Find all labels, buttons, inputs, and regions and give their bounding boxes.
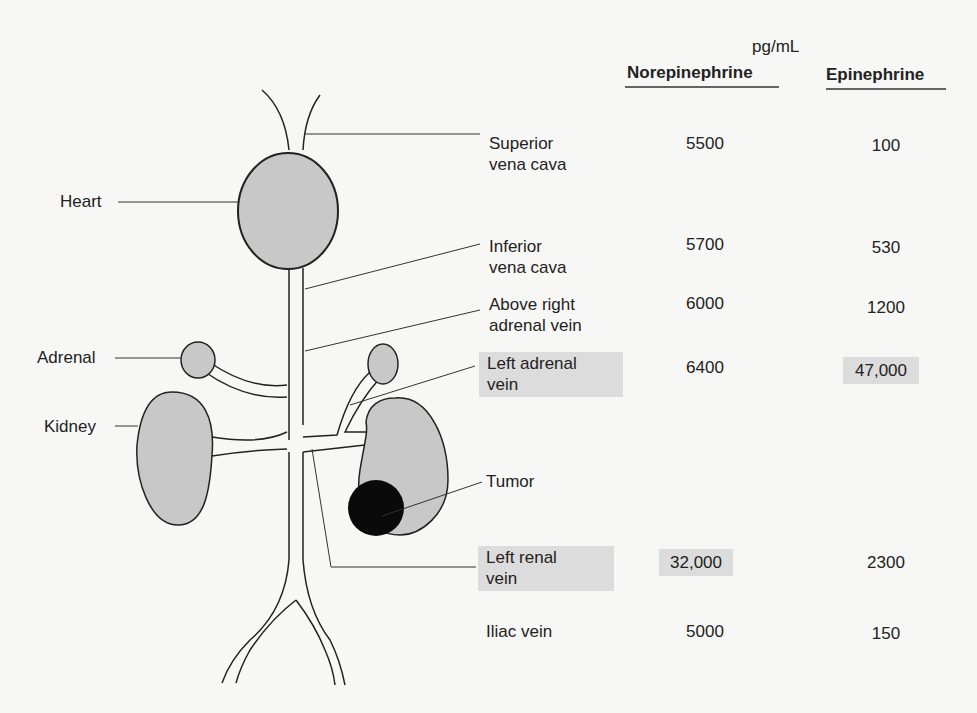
superior-vena-cava-right-branch	[303, 95, 320, 150]
epi-value-superior-vena-cava: 100	[831, 136, 941, 156]
epinephrine-header: Epinephrine	[826, 65, 924, 85]
tumor-shape	[348, 480, 404, 536]
site-label-iliac-vein: Iliac vein	[486, 621, 552, 642]
epi-value-above-right-adrenal-vein: 1200	[831, 298, 941, 318]
left-adrenal-shape	[368, 344, 398, 384]
site-label-inferior-vena-cava: Inferiorvena cava	[489, 236, 567, 278]
right-kidney-shape	[137, 392, 213, 525]
kidney-label: Kidney	[44, 416, 96, 437]
ne-value-inferior-vena-cava: 5700	[650, 235, 760, 255]
ne-value-left-adrenal-vein: 6400	[650, 358, 760, 378]
adrenal-label: Adrenal	[37, 347, 96, 368]
norepinephrine-header: Norepinephrine	[627, 63, 753, 83]
ne-value-iliac-vein: 5000	[650, 622, 760, 642]
epi-value-left-renal-vein: 2300	[831, 553, 941, 573]
superior-vena-cava-left-branch	[262, 90, 289, 150]
site-label-left-adrenal-vein: Left adrenalvein	[479, 352, 623, 397]
epi-value-left-adrenal-vein: 47,000	[843, 357, 919, 384]
units-label: pg/mL	[752, 36, 799, 57]
heart-shape	[238, 153, 338, 269]
epi-value-iliac-vein: 150	[831, 624, 941, 644]
site-label-above-right-adrenal-vein: Above rightadrenal vein	[489, 294, 582, 336]
site-label-superior-vena-cava: Superiorvena cava	[489, 133, 567, 175]
right-adrenal-shape	[181, 342, 215, 378]
epi-value-inferior-vena-cava: 530	[831, 238, 941, 258]
ne-value-superior-vena-cava: 5500	[650, 134, 760, 154]
site-label-left-renal-vein: Left renalvein	[478, 546, 614, 591]
ne-value-left-renal-vein: 32,000	[659, 549, 733, 576]
ne-value-above-right-adrenal-vein: 6000	[650, 294, 760, 314]
heart-label: Heart	[60, 191, 102, 212]
tumor-label: Tumor	[486, 471, 535, 492]
